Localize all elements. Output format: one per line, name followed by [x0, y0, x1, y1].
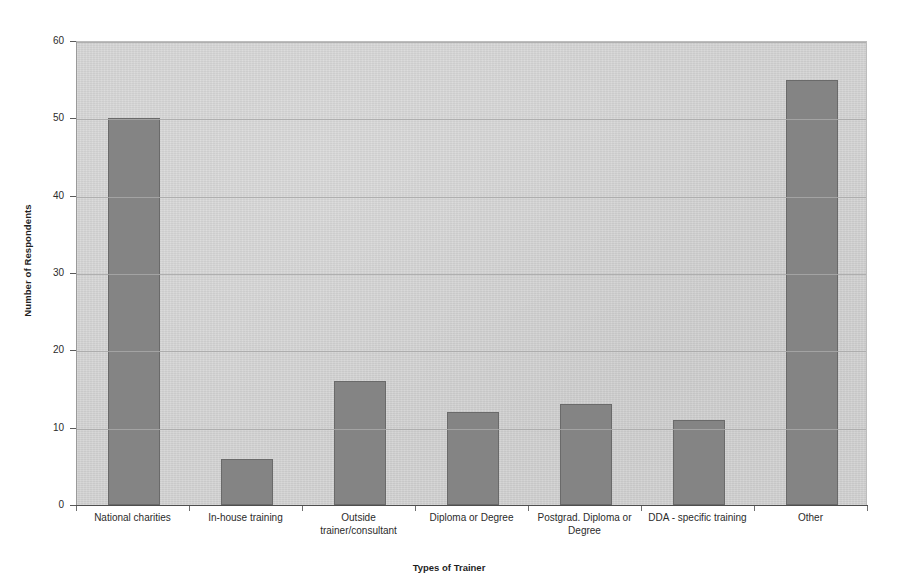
y-tick-label: 60	[14, 36, 64, 46]
x-category-label: Other	[754, 512, 867, 525]
gridline	[77, 197, 866, 198]
gridline	[77, 119, 866, 120]
y-tick-mark	[70, 273, 76, 274]
gridline	[77, 42, 866, 43]
y-tick-label: 0	[14, 500, 64, 510]
y-tick-label: 10	[14, 423, 64, 433]
bar	[786, 80, 838, 505]
gridline	[77, 429, 866, 430]
x-category-label: National charities	[76, 512, 189, 525]
y-tick-label: 50	[14, 113, 64, 123]
x-category-label: Postgrad. Diploma or Degree	[528, 512, 641, 537]
bar-chart: Number of Respondents 0102030405060 Nati…	[0, 0, 898, 587]
y-tick-label: 40	[14, 191, 64, 201]
plot-area	[76, 41, 867, 505]
y-tick-mark	[70, 350, 76, 351]
y-tick-label: 30	[14, 268, 64, 278]
bar	[334, 381, 386, 505]
x-category-label: Diploma or Degree	[415, 512, 528, 525]
bar	[221, 459, 273, 505]
x-tick-mark	[754, 506, 755, 511]
x-tick-mark	[76, 506, 77, 511]
x-axis-title: Types of Trainer	[0, 562, 898, 573]
y-tick-mark	[70, 428, 76, 429]
x-category-label: DDA - specific training	[641, 512, 754, 525]
bar	[108, 118, 160, 505]
y-tick-label: 20	[14, 345, 64, 355]
y-tick-mark	[70, 41, 76, 42]
y-axis-title: Number of Respondents	[22, 191, 33, 331]
x-category-label: Outside trainer/consultant	[302, 512, 415, 537]
x-tick-mark	[528, 506, 529, 511]
bar	[673, 420, 725, 505]
y-tick-mark	[70, 196, 76, 197]
bar	[447, 412, 499, 505]
x-tick-mark	[189, 506, 190, 511]
x-tick-mark	[641, 506, 642, 511]
x-tick-mark	[415, 506, 416, 511]
bar	[560, 404, 612, 505]
gridline	[77, 274, 866, 275]
x-tick-mark	[867, 506, 868, 511]
gridline	[77, 351, 866, 352]
x-tick-mark	[302, 506, 303, 511]
x-category-label: In-house training	[189, 512, 302, 525]
x-axis-line	[76, 505, 868, 506]
y-tick-mark	[70, 118, 76, 119]
